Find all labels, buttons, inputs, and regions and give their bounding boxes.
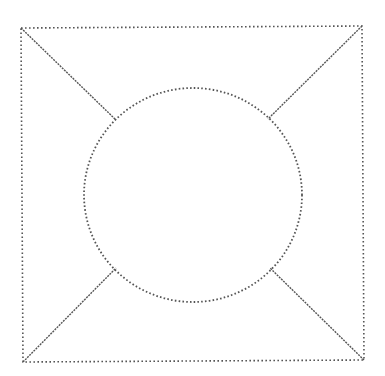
- inner-circle: [84, 88, 302, 302]
- connector-top-left: [21, 28, 116, 120]
- square-circle-diagram: [0, 0, 385, 376]
- diagram-canvas: [0, 0, 385, 376]
- connector-bottom-left: [23, 268, 116, 362]
- connector-top-right: [268, 26, 362, 119]
- connector-bottom-right: [270, 268, 364, 360]
